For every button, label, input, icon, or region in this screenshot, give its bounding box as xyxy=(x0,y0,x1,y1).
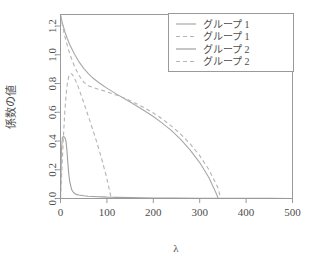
x-tick-label: 400 xyxy=(238,206,255,218)
x-tick-label: 200 xyxy=(145,206,162,218)
y-tick-label: 1.2 xyxy=(46,19,58,33)
y-tick-label: 0.0 xyxy=(46,191,58,205)
series-line-3 xyxy=(61,137,293,199)
y-tick-label: 0.6 xyxy=(46,105,58,119)
x-tick-label: 0 xyxy=(58,206,64,218)
y-axis-ticks: 0.00.20.40.60.81.01.2 xyxy=(46,19,60,205)
y-tick-label: 0.8 xyxy=(46,76,58,90)
y-tick-label: 0.2 xyxy=(46,163,58,177)
x-tick-label: 300 xyxy=(191,206,208,218)
y-tick-label: 0.4 xyxy=(46,134,58,148)
x-tick-label: 500 xyxy=(284,206,301,218)
legend: グループ 1グループ 1グループ 2グループ 2 xyxy=(169,14,294,72)
legend-label-4: グループ 2 xyxy=(203,55,250,67)
y-axis-title: 係数の値 xyxy=(5,85,17,129)
legend-label-1: グループ 1 xyxy=(203,18,250,30)
line-chart: 0100200300400500 0.00.20.40.60.81.01.2 λ… xyxy=(0,0,309,265)
y-tick-label: 1.0 xyxy=(46,47,58,61)
x-tick-label: 100 xyxy=(99,206,116,218)
legend-label-2: グループ 1 xyxy=(203,30,250,42)
x-axis-title: λ xyxy=(173,242,179,254)
legend-label-3: グループ 2 xyxy=(203,43,250,55)
chart-figure: 0100200300400500 0.00.20.40.60.81.01.2 λ… xyxy=(0,0,309,265)
x-axis-ticks: 0100200300400500 xyxy=(58,199,302,218)
